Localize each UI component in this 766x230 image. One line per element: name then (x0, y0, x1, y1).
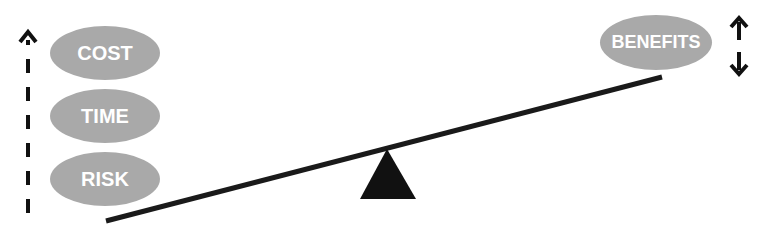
benefits-oval: BENEFITS (600, 15, 712, 70)
cost-label: COST (77, 42, 133, 65)
time-oval: TIME (50, 89, 160, 143)
fulcrum-triangle (360, 149, 416, 199)
cost-oval: COST (50, 26, 160, 80)
risk-oval: RISK (50, 152, 160, 206)
up-arrow-icon (731, 18, 747, 40)
risk-label: RISK (81, 168, 129, 191)
down-arrow-icon (731, 52, 747, 74)
time-label: TIME (81, 105, 129, 128)
dashed-up-arrow-icon (20, 32, 36, 213)
benefits-label: BENEFITS (611, 32, 700, 53)
plank (106, 77, 662, 221)
